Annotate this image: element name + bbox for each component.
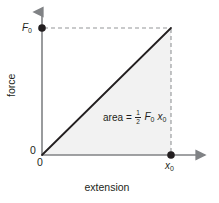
y-axis-origin-label: 0 xyxy=(30,145,36,156)
chart-canvas xyxy=(0,0,219,203)
area-word: area xyxy=(103,113,123,123)
equals-sign: = xyxy=(126,113,132,123)
x0-subscript: 0 xyxy=(170,165,174,172)
annotation-force-term: F0 xyxy=(144,112,154,123)
annotation-force-subscript: 0 xyxy=(151,116,155,123)
x-tick-label-x0: x0 xyxy=(165,161,174,172)
annotation-extension-term: x0 xyxy=(158,112,167,123)
x-axis-label: extension xyxy=(62,182,152,193)
f0-subscript: 0 xyxy=(28,27,32,34)
area-annotation: area = 1 2 F0x0 xyxy=(103,110,166,125)
f0-marker xyxy=(38,24,46,32)
y-axis-label: force xyxy=(6,62,17,108)
y-tick-label-f0: F0 xyxy=(22,23,32,34)
fraction-denominator: 2 xyxy=(135,119,141,126)
one-half-fraction: 1 2 xyxy=(135,110,141,125)
x0-marker xyxy=(167,151,175,159)
annotation-extension-subscript: 0 xyxy=(163,116,167,123)
fraction-numerator: 1 xyxy=(135,110,141,117)
x-axis-origin-label: 0 xyxy=(37,157,43,168)
force-extension-chart: force extension F0 x0 0 0 area = 1 2 F0x… xyxy=(0,0,219,203)
